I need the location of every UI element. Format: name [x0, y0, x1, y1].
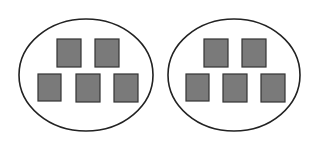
- group-1: [19, 19, 153, 131]
- group-2: [168, 19, 300, 131]
- square: [76, 74, 100, 102]
- grouping-diagram: [0, 0, 317, 146]
- square: [204, 39, 228, 67]
- square: [38, 74, 61, 101]
- square: [223, 74, 247, 102]
- square: [95, 39, 119, 67]
- square: [114, 74, 138, 102]
- square: [261, 74, 285, 102]
- square: [57, 39, 81, 67]
- square: [186, 74, 209, 101]
- square: [242, 39, 266, 67]
